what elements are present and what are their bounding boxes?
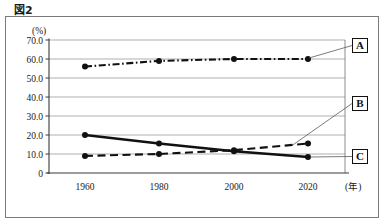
series-a-point-1980	[156, 58, 162, 64]
series-a-point-1960	[82, 64, 88, 70]
y-tick-label-30: 30.0	[26, 112, 43, 122]
x-tick-label-1980: 1980	[150, 182, 169, 192]
y-tick-label-70: 70.0	[26, 36, 43, 46]
series-c-point-1960	[82, 132, 88, 138]
series-c-point-2000	[231, 148, 237, 154]
leader-line-b	[292, 104, 352, 146]
figure-container: 図2 (%) 7	[0, 0, 386, 224]
series-a-line	[82, 56, 311, 70]
x-tick-label-2020: 2020	[299, 182, 318, 192]
series-a-point-2020	[305, 56, 311, 62]
y-tick-label-20: 20.0	[26, 131, 43, 141]
callout-label-a-text: A	[353, 39, 367, 51]
series-b-line	[82, 141, 311, 159]
y-tick-label-40: 40.0	[26, 93, 43, 103]
callout-label-b[interactable]: B	[352, 96, 368, 111]
x-tick-label-1960: 1960	[76, 182, 95, 192]
x-tick-label-2000: 2000	[225, 182, 244, 192]
callout-label-c[interactable]: C	[352, 149, 368, 164]
line-chart: (%) 70.0 60.0 50.0 40.0 30.0 20.0 10.0 0…	[0, 0, 386, 224]
y-tick-label-50: 50.0	[26, 74, 43, 84]
leader-line-a	[309, 46, 352, 59]
series-b-point-2020	[305, 141, 311, 147]
series-a-path	[85, 59, 308, 67]
series-a-point-2000	[231, 56, 237, 62]
y-tick-label-0: 0	[38, 169, 43, 179]
series-b-point-1980	[156, 151, 162, 157]
series-b-point-1960	[82, 153, 88, 159]
callout-leader-lines	[292, 46, 352, 158]
leader-line-c	[310, 157, 352, 158]
x-axis-unit-label: (年)	[345, 181, 361, 193]
callout-label-a[interactable]: A	[352, 38, 368, 53]
callout-label-b-text: B	[353, 97, 367, 109]
callout-label-c-text: C	[353, 150, 367, 162]
y-tick-label-10: 10.0	[26, 150, 43, 160]
y-tick-label-60: 60.0	[26, 55, 43, 65]
series-c-point-1980	[156, 141, 162, 147]
